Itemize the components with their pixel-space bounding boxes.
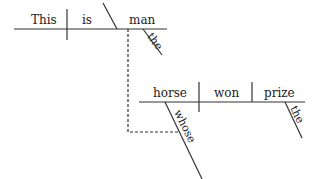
word-won: won (214, 87, 239, 99)
complement-slant (103, 3, 117, 29)
word-man: man (129, 14, 155, 26)
word-is: is (82, 14, 92, 26)
word-prize: prize (264, 87, 295, 99)
word-horse: horse (153, 87, 187, 99)
word-this: This (31, 14, 57, 26)
